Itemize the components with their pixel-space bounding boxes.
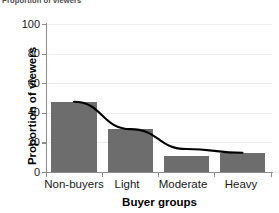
x-axis-title: Buyer groups xyxy=(46,196,273,208)
x-label-moderate: Moderate xyxy=(153,178,213,191)
trend-curve xyxy=(0,24,279,172)
x-tick-0 xyxy=(46,173,47,177)
x-tick-1 xyxy=(102,173,103,177)
x-tick-3 xyxy=(214,173,215,177)
x-label-non-buyers: Non-buyers xyxy=(41,178,107,191)
x-tick-2 xyxy=(158,173,159,177)
chart-figure: Proportion of viewers 100 80 60 40 20 0 xyxy=(0,0,279,213)
y-axis-title: Proportion of viewers xyxy=(26,36,38,176)
x-label-heavy: Heavy xyxy=(212,178,270,191)
x-label-light: Light xyxy=(99,178,155,191)
x-tick-4 xyxy=(271,173,272,177)
